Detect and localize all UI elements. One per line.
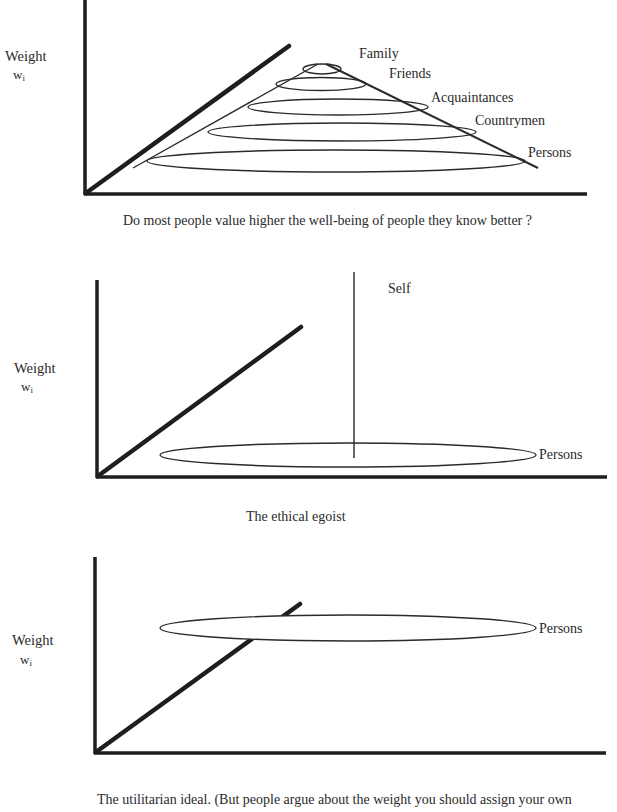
label-persons: Persons [528,145,572,161]
label-family: Family [359,46,399,62]
y-axis-symbol: wi [13,67,25,86]
y-axis-label: Weight [12,632,54,648]
y-axis-symbol: wi [21,379,33,398]
ellipse-countrymen [208,123,476,141]
caption: The utilitarian ideal. (But people argue… [97,792,572,808]
label-persons: Persons [539,447,583,463]
y-axis-label: Weight [5,48,47,64]
ellipse-persons [160,615,536,641]
label-friends: Friends [389,66,431,82]
y-axis-symbol: wi [20,652,32,671]
label-countrymen: Countrymen [475,113,545,129]
ellipse-persons [160,443,536,467]
panel-3-axes [94,557,606,754]
panel-2-shapes [160,272,536,467]
ellipse-persons [147,150,525,172]
label-acquaintances: Acquaintances [431,90,513,106]
panel-2-axes [96,280,607,478]
ellipse-friends [276,78,366,91]
panel-3-shapes [160,615,536,641]
label-persons: Persons [539,621,583,637]
caption: The ethical egoist [246,509,346,525]
y-axis-label: Weight [14,360,56,376]
ellipse-acquaintances [248,99,428,115]
label-self: Self [388,281,411,297]
caption: Do most people value higher the well-bei… [123,213,532,229]
